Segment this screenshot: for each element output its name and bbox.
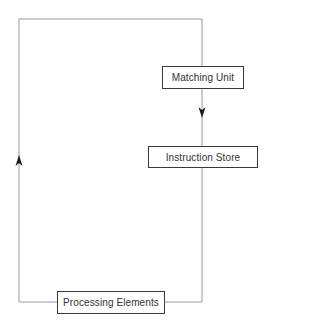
instruction-store-label: Instruction Store xyxy=(166,152,241,163)
processing-elements-box: Processing Elements xyxy=(57,291,165,314)
matching-unit-box: Matching Unit xyxy=(162,66,244,89)
matching-unit-label: Matching Unit xyxy=(172,72,234,83)
instruction-store-box: Instruction Store xyxy=(148,146,258,168)
processing-elements-label: Processing Elements xyxy=(63,297,159,308)
